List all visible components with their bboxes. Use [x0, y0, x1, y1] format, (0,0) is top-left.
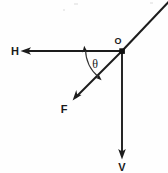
origin-point-dot — [119, 48, 125, 54]
label-vertical: V — [118, 161, 126, 173]
label-angle-theta: θ — [92, 57, 98, 71]
line-of-action-ray — [122, 2, 168, 52]
force-arrowhead-icon — [73, 90, 82, 101]
force-vector-line — [76, 51, 123, 98]
force-vector-diagram: H O F V θ — [0, 0, 168, 173]
label-origin: O — [114, 36, 121, 46]
label-force: F — [61, 103, 68, 115]
vector-diagram-canvas: H O F V θ — [0, 0, 168, 173]
label-horizontal: H — [11, 45, 19, 57]
